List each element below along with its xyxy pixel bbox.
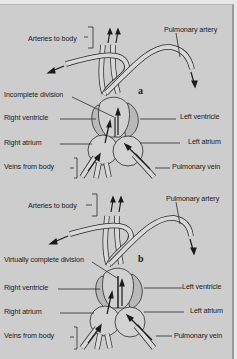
label-right-ventricle: Right ventricle [4,283,48,292]
label-left-ventricle: Left ventricle [180,112,219,121]
label-arteries-to-body: Arteries to body [28,201,77,210]
label-right-ventricle: Right ventricle [4,113,48,122]
label-veins-from-body: Veins from body [4,162,54,171]
label-right-atrium: Right atrium [4,138,42,147]
label-veins-from-body: Veins from body [4,331,54,340]
panel-b: Arteries to body Pulmonary artery Virtua… [0,180,232,355]
diagram-frame: Arteries to body Pulmonary artery Incomp… [0,4,234,359]
panel-letter-a: a [138,85,143,96]
label-arteries-to-body: Arteries to body [28,34,77,43]
label-pulmonary-artery: Pulmonary artery [164,25,217,34]
label-division: Incomplete division [4,90,63,99]
label-left-ventricle: Left ventricle [182,282,221,291]
label-pulmonary-vein: Pulmonary vein [172,162,220,171]
label-left-atrium: Left atrium [188,137,221,146]
label-division: Virtually complete division [4,255,84,264]
label-pulmonary-vein: Pulmonary vein [174,331,222,340]
panel-letter-b: b [138,253,144,264]
label-pulmonary-artery: Pulmonary artery [166,194,219,203]
panel-a: Arteries to body Pulmonary artery Incomp… [0,5,232,180]
label-left-atrium: Left atrium [190,306,223,315]
label-right-atrium: Right atrium [4,307,42,316]
